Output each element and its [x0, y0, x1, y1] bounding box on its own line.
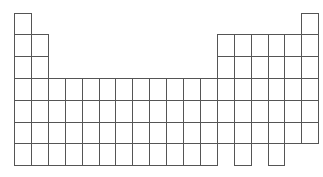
element-cell-p6-g18: [301, 122, 319, 144]
element-cell-p4-g17: [284, 78, 302, 101]
element-cell-p3-g16: [268, 56, 285, 79]
element-cell-p5-g12: [200, 100, 218, 123]
element-cell-p2-g1: [14, 34, 32, 57]
element-cell-p4-g3: [48, 78, 66, 101]
element-cell-p2-g16: [268, 34, 285, 57]
element-cell-p5-g7: [115, 100, 133, 123]
element-cell-p4-g8: [132, 78, 150, 101]
element-cell-p4-g13: [217, 78, 235, 101]
element-cell-p6-g7: [115, 122, 133, 144]
element-cell-p4-g1: [14, 78, 32, 101]
element-cell-p4-g12: [200, 78, 218, 101]
element-cell-p6-g4: [65, 122, 83, 144]
element-cell-p5-g16: [268, 100, 285, 123]
element-cell-p1-g18: [301, 13, 319, 35]
element-cell-p7-g8: [132, 143, 150, 166]
element-cell-p4-g2: [31, 78, 49, 101]
element-cell-p4-g5: [82, 78, 100, 101]
element-cell-p5-g9: [149, 100, 167, 123]
element-cell-p7-g11: [183, 143, 201, 166]
element-cell-p5-g6: [99, 100, 116, 123]
element-cell-p7-g1: [14, 143, 32, 166]
element-cell-p5-g2: [31, 100, 49, 123]
element-cell-p3-g13: [217, 56, 235, 79]
element-cell-p5-g14: [234, 100, 252, 123]
element-cell-p5-g8: [132, 100, 150, 123]
element-cell-p7-g9: [149, 143, 167, 166]
element-cell-p7-g4: [65, 143, 83, 166]
element-cell-p6-g8: [132, 122, 150, 144]
element-cell-p5-g11: [183, 100, 201, 123]
element-cell-p5-g18: [301, 100, 319, 123]
element-cell-p4-g11: [183, 78, 201, 101]
element-cell-p5-g13: [217, 100, 235, 123]
element-cell-p2-g13: [217, 34, 235, 57]
periodic-table-outline: [0, 0, 323, 177]
element-cell-p2-g15: [251, 34, 269, 57]
element-cell-p5-g17: [284, 100, 302, 123]
element-cell-p4-g15: [251, 78, 269, 101]
element-cell-p6-g6: [99, 122, 116, 144]
element-cell-p5-g4: [65, 100, 83, 123]
element-cell-p2-g18: [301, 34, 319, 57]
element-cell-p3-g1: [14, 56, 32, 79]
element-cell-p6-g5: [82, 122, 100, 144]
element-cell-p6-g12: [200, 122, 218, 144]
element-cell-p7-g3: [48, 143, 66, 166]
element-cell-p7-g12: [200, 143, 218, 166]
element-cell-p6-g1: [14, 122, 32, 144]
element-cell-p2-g2: [31, 34, 49, 57]
element-cell-p6-g11: [183, 122, 201, 144]
element-cell-p4-g14: [234, 78, 252, 101]
element-cell-p6-g13: [217, 122, 235, 144]
element-cell-p4-g6: [99, 78, 116, 101]
element-cell-p3-g17: [284, 56, 302, 79]
element-cell-p5-g1: [14, 100, 32, 123]
element-cell-p4-g9: [149, 78, 167, 101]
element-cell-p2-g14: [234, 34, 252, 57]
element-cell-p7-g14: [234, 143, 252, 166]
element-cell-p7-g6: [99, 143, 116, 166]
element-cell-p7-g5: [82, 143, 100, 166]
element-cell-p4-g4: [65, 78, 83, 101]
element-cell-p6-g9: [149, 122, 167, 144]
element-cell-p3-g2: [31, 56, 49, 79]
element-cell-p5-g3: [48, 100, 66, 123]
element-cell-p7-g10: [166, 143, 184, 166]
element-cell-p6-g2: [31, 122, 49, 144]
element-cell-p6-g17: [284, 122, 302, 144]
element-cell-p6-g10: [166, 122, 184, 144]
element-cell-p5-g10: [166, 100, 184, 123]
element-cell-p4-g7: [115, 78, 133, 101]
element-cell-p7-g16: [268, 143, 285, 166]
element-cell-p3-g18: [301, 56, 319, 79]
element-cell-p7-g7: [115, 143, 133, 166]
element-cell-p2-g17: [284, 34, 302, 57]
element-cell-p5-g5: [82, 100, 100, 123]
element-cell-p4-g18: [301, 78, 319, 101]
element-cell-p6-g16: [268, 122, 285, 144]
element-cell-p3-g14: [234, 56, 252, 79]
element-cell-p1-g1: [14, 13, 32, 35]
element-cell-p5-g15: [251, 100, 269, 123]
element-cell-p6-g14: [234, 122, 252, 144]
element-cell-p4-g16: [268, 78, 285, 101]
element-cell-p7-g2: [31, 143, 49, 166]
element-cell-p6-g15: [251, 122, 269, 144]
element-cell-p3-g15: [251, 56, 269, 79]
element-cell-p6-g3: [48, 122, 66, 144]
element-cell-p4-g10: [166, 78, 184, 101]
